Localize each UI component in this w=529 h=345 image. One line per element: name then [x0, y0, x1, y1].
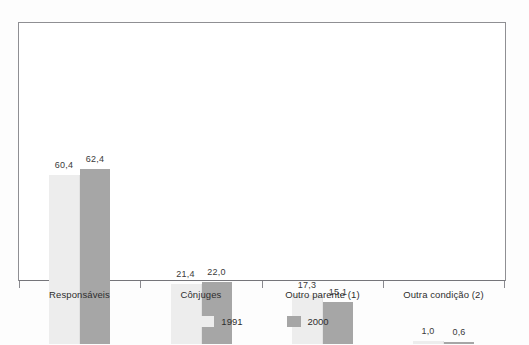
- legend-swatch-icon: [200, 316, 214, 327]
- category-label-outro-parente: Outro parente (1): [262, 289, 383, 300]
- chart-page: 60,4 62,4 21,4 22,0 17,3 15,1: [0, 0, 529, 345]
- legend-label: 2000: [308, 316, 329, 327]
- bar-value-label: 22,0: [207, 267, 225, 277]
- legend-item-2000[interactable]: 2000: [287, 316, 329, 327]
- bar-value-label: 60,4: [55, 160, 73, 170]
- legend-label: 1991: [221, 316, 242, 327]
- bar-group-responsaveis: 60,4 62,4: [19, 148, 140, 344]
- axis-tick-4: [504, 281, 505, 288]
- legend-item-1991[interactable]: 1991: [200, 316, 242, 327]
- bar-1991-outra-condicao[interactable]: 1,0: [413, 341, 444, 344]
- chart-legend: 1991 2000: [0, 316, 529, 327]
- bar-group-outro-parente: 17,3 15,1: [262, 148, 383, 344]
- legend-swatch-icon: [287, 316, 301, 327]
- category-label-outra-condicao: Outra condição (2): [383, 289, 504, 300]
- page-margin-text-fragments: [515, 232, 529, 327]
- bar-group-outra-condicao: 1,0 0,6: [383, 148, 504, 344]
- category-label-responsaveis: Responsáveis: [19, 289, 140, 300]
- bar-value-label: 1,0: [421, 326, 434, 336]
- bar-2000-outra-condicao[interactable]: 0,6: [444, 342, 474, 344]
- bar-group-conjuges: 21,4 22,0: [140, 148, 262, 344]
- bar-value-label: 62,4: [86, 154, 104, 164]
- bar-value-label: 21,4: [176, 269, 194, 279]
- category-label-conjuges: Cônjuges: [140, 289, 262, 300]
- bar-value-label: 0,6: [452, 327, 465, 337]
